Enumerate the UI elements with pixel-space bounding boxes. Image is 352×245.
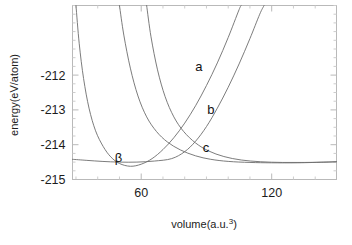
curve-annotation-a: a — [195, 59, 203, 74]
x-axis-title: volume(a.u.3) — [171, 217, 237, 230]
curve-annotation-c: c — [203, 140, 210, 155]
x-tick-label: 120 — [261, 186, 282, 200]
y-tick-label: -212 — [40, 69, 65, 83]
y-axis-title: energy(eV/atom) — [8, 54, 20, 136]
x-axis-tick-labels: 60120 — [134, 186, 282, 200]
y-tick-label: -214 — [40, 138, 65, 152]
x-axis-title-main: volume(a.u. — [171, 218, 228, 230]
curve-annotation-b: b — [207, 102, 214, 117]
y-tick-label: -215 — [40, 173, 65, 187]
curve-c — [147, 6, 337, 163]
curve-β — [76, 6, 241, 167]
energy-volume-plot: -212-213-214-215 60120 abcβ energy(eV/at… — [0, 0, 352, 245]
x-axis-title-tail: ) — [233, 218, 237, 230]
x-tick-label: 60 — [134, 186, 148, 200]
curve-labels: abcβ — [115, 59, 215, 165]
curve-b — [119, 6, 336, 163]
y-tick-label: -213 — [40, 103, 65, 117]
curve-annotation-β: β — [115, 150, 122, 165]
y-axis-tick-labels: -212-213-214-215 — [40, 69, 65, 187]
chart-figure: -212-213-214-215 60120 abcβ energy(eV/at… — [0, 0, 352, 245]
curve-a — [73, 6, 265, 163]
